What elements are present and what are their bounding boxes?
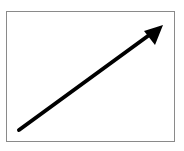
diagram-canvas	[0, 0, 184, 151]
arrow-up-right-icon	[19, 25, 163, 130]
arrow-shaft	[19, 33, 152, 130]
